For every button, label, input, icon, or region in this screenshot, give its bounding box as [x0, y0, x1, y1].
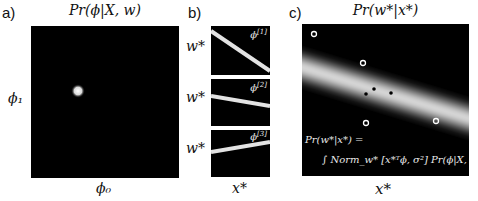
panel-a-label: a) — [2, 4, 15, 21]
panel-a-xlabel: ϕ₀ — [96, 180, 111, 196]
predictive-plot: Pr(w*|x*) = ∫ Norm_w* [x*ᵀϕ, σ²] Pr(ϕ|X,… — [302, 24, 469, 176]
panel-c-label: c) — [289, 4, 302, 21]
panel-b-label: b) — [188, 4, 201, 21]
sample-3-tag: ϕ[3] — [250, 130, 267, 142]
sample-1-tag: ϕ[1] — [250, 28, 267, 40]
sample-1-ylabel: w* — [186, 38, 205, 54]
sample-plot-1: ϕ[1] — [211, 26, 270, 75]
sample-3-ylabel: w* — [186, 140, 205, 156]
panel-b-xlabel: x* — [232, 180, 247, 196]
posterior-blob — [31, 26, 179, 178]
sample-2-ylabel: w* — [186, 89, 205, 105]
formula-line-1: Pr(w*|x*) = — [305, 134, 363, 145]
posterior-plot — [31, 26, 179, 178]
panel-c-title: Pr(w*|x*) — [302, 2, 469, 18]
formula-line-2: ∫ Norm_w* [x*ᵀϕ, σ²] Pr(ϕ|X, w) dϕ — [322, 154, 469, 165]
panel-a-title: Pr(ϕ|X, w) — [31, 2, 179, 18]
panel-a-ylabel: ϕ₁ — [8, 90, 23, 106]
sample-2-tag: ϕ[2] — [250, 81, 267, 93]
sample-plot-2: ϕ[2] — [211, 79, 270, 126]
panel-c-xlabel: x* — [375, 180, 391, 198]
sample-plot-3: ϕ[3] — [211, 130, 270, 177]
